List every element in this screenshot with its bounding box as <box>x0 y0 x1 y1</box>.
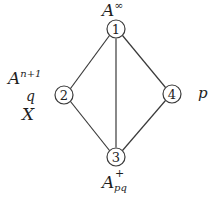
label-a-infinity: A∞ <box>102 2 123 19</box>
label-a-plus-pq-sub: pq <box>114 183 127 193</box>
edge-1-4 <box>123 36 166 88</box>
edge-2-3 <box>71 102 110 151</box>
label-a-plus-pq-sup: + <box>115 168 124 179</box>
label-q: q <box>26 89 35 103</box>
edge-1-2 <box>71 36 110 89</box>
node-3-label: 3 <box>112 150 120 165</box>
label-a-n-plus-1: An+1 <box>8 70 41 87</box>
edge-4-3 <box>123 101 166 151</box>
lattice-diagram: 1 2 3 4 A∞ An+1 q X p A + pq <box>0 0 218 201</box>
label-a-plus-pq-base: A <box>102 172 114 192</box>
node-4-label: 4 <box>168 87 176 102</box>
label-a-n-plus-1-sup: n+1 <box>20 68 41 79</box>
label-a-infinity-base: A <box>102 0 114 20</box>
node-2-label: 2 <box>60 88 68 103</box>
label-x: X <box>22 106 34 123</box>
node-1-label: 1 <box>112 22 120 37</box>
label-a-plus-pq: A + pq <box>102 174 114 191</box>
label-a-infinity-sup: ∞ <box>114 0 123 12</box>
label-a-n-plus-1-base: A <box>8 68 20 88</box>
label-p: p <box>198 86 208 101</box>
